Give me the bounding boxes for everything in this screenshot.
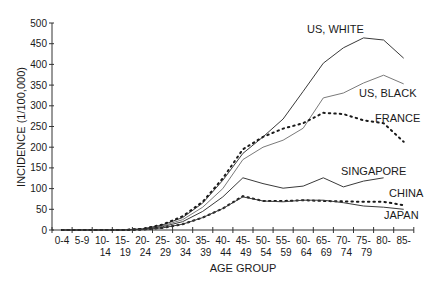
incidence-line-chart: 0501001502002503003504004505000-45-910-1… — [0, 0, 436, 285]
x-tick-label: 65- — [316, 235, 330, 246]
x-tick-label: 70- — [336, 235, 350, 246]
y-tick-label: 300 — [30, 100, 47, 111]
x-tick-label-line2: 74 — [341, 247, 353, 258]
x-tick-label-line2: 39 — [200, 247, 212, 258]
y-tick-label: 50 — [36, 204, 48, 215]
x-tick-label-line2: 19 — [120, 247, 132, 258]
x-tick-label-line2: 24 — [140, 247, 152, 258]
x-tick-label: 35- — [195, 235, 209, 246]
x-tick-label-line2: 64 — [301, 247, 313, 258]
y-tick-label: 100 — [30, 183, 47, 194]
series-line-china — [62, 196, 404, 230]
x-tick-label: 75- — [356, 235, 370, 246]
x-tick-label-line2: 79 — [361, 247, 373, 258]
x-tick-label: 0-4 — [55, 235, 70, 246]
x-tick-label-line2: 49 — [240, 247, 252, 258]
axes: 0501001502002503003504004505000-45-910-1… — [30, 18, 413, 259]
x-tick-label: 50- — [256, 235, 270, 246]
x-tick-label: 80- — [376, 235, 390, 246]
x-tick-label-line2: 14 — [100, 247, 112, 258]
x-tick-label-line2: 34 — [180, 247, 192, 258]
series-label-us-white: US, WHITE — [307, 23, 364, 35]
x-tick-label: 60- — [296, 235, 310, 246]
x-tick-label: 5-9 — [75, 235, 90, 246]
y-tick-label: 0 — [41, 225, 47, 236]
x-tick-label: 45- — [236, 235, 250, 246]
series-line-singapore — [62, 178, 384, 230]
x-tick-label-line2: 69 — [321, 247, 333, 258]
x-tick-label: 30- — [175, 235, 189, 246]
y-tick-label: 450 — [30, 38, 47, 49]
x-tick-label-line2: 54 — [260, 247, 272, 258]
x-tick-label: 20- — [135, 235, 149, 246]
x-axis-label: AGE GROUP — [210, 262, 277, 274]
x-tick-label-line2: 29 — [160, 247, 172, 258]
x-tick-label: 25- — [155, 235, 169, 246]
series-label-singapore: SINGAPORE — [341, 165, 406, 177]
series-label-france: FRANCE — [375, 112, 420, 124]
x-tick-label-line2: 59 — [281, 247, 293, 258]
y-axis-label: INCIDENCE (1/100,000) — [15, 67, 27, 187]
series-label-japan: JAPAN — [384, 209, 419, 221]
y-tick-label: 150 — [30, 162, 47, 173]
series-line-us-black — [62, 75, 404, 230]
series-labels: US, WHITEUS, BLACKFRANCESINGAPORECHINAJA… — [307, 23, 424, 221]
y-tick-label: 500 — [30, 18, 47, 29]
x-tick-label: 55- — [276, 235, 290, 246]
y-tick-label: 200 — [30, 142, 47, 153]
x-tick-label-line2: 44 — [220, 247, 232, 258]
x-tick-label: 85- — [396, 235, 410, 246]
y-tick-label: 250 — [30, 121, 47, 132]
y-tick-label: 400 — [30, 59, 47, 70]
x-tick-label: 40- — [216, 235, 230, 246]
x-tick-label: 10- — [95, 235, 109, 246]
series-lines — [62, 38, 404, 230]
y-tick-label: 350 — [30, 80, 47, 91]
series-label-china: CHINA — [389, 187, 424, 199]
x-tick-label: 15- — [115, 235, 129, 246]
series-label-us-black: US, BLACK — [359, 87, 417, 99]
